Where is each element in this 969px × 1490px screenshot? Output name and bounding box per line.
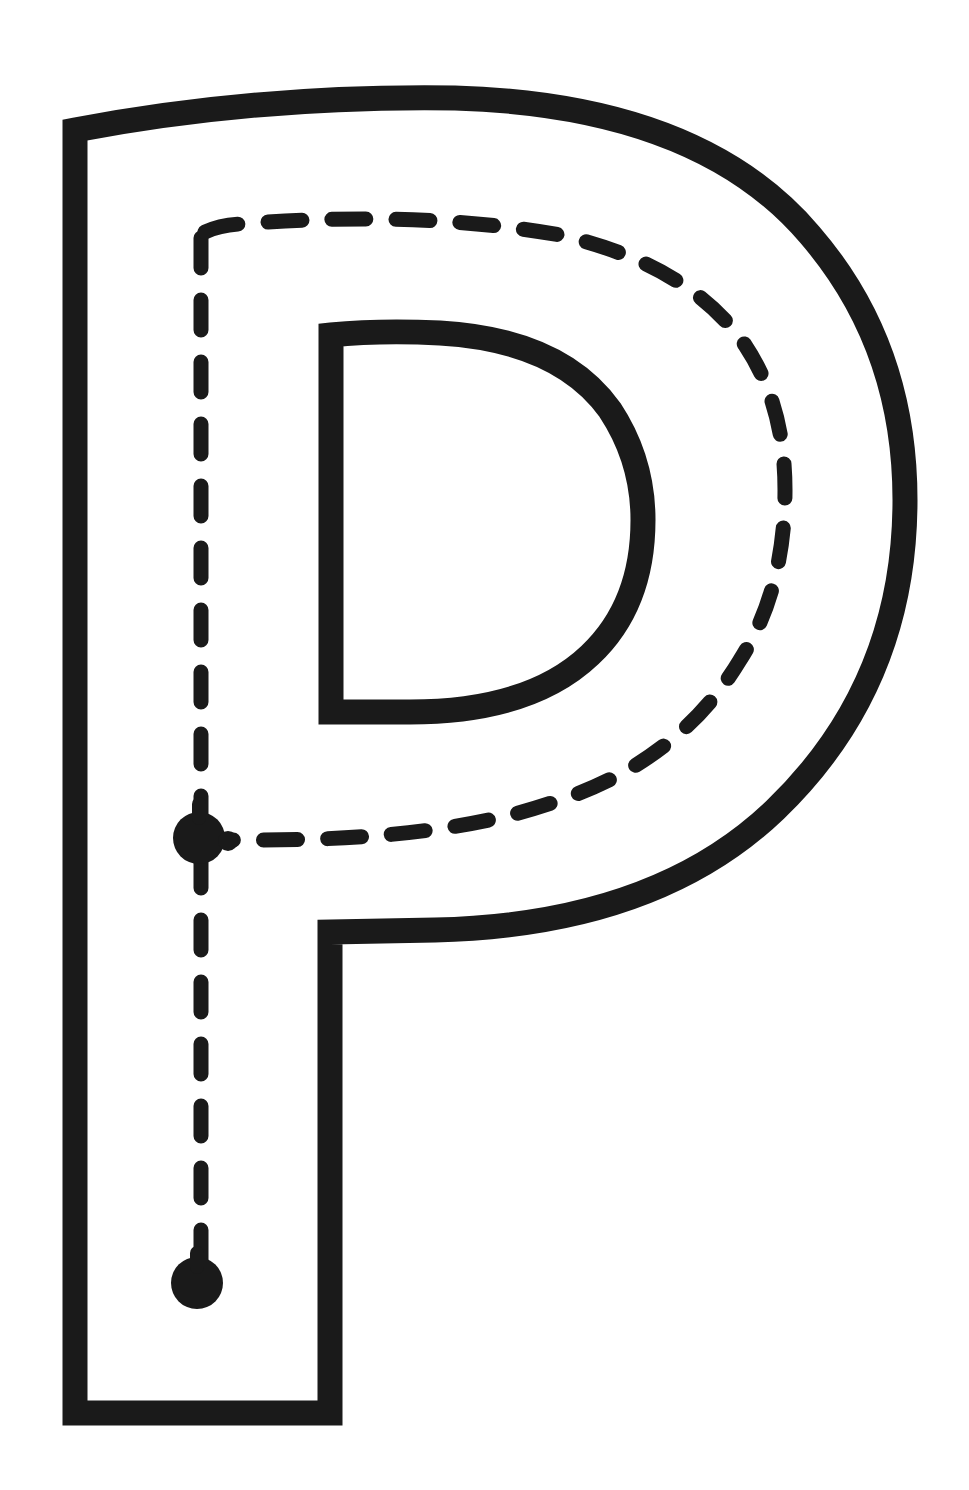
junction-dot-icon: [173, 797, 238, 864]
letter-counter: [331, 332, 643, 712]
start-dot-icon: [171, 1246, 223, 1309]
guide-bowl-dashed: [205, 219, 785, 840]
letter-p-tracing-worksheet: [0, 0, 969, 1490]
